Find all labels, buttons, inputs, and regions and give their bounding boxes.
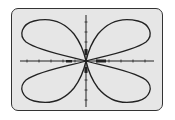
graph-plot	[0, 0, 175, 120]
petal-lower-left	[22, 61, 86, 102]
petal-upper-right	[86, 20, 150, 61]
petal-upper-left	[22, 20, 86, 61]
petal-lower-right	[86, 61, 150, 102]
